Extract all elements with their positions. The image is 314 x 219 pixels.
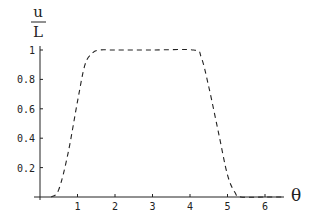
x-axis-label: θ	[291, 185, 301, 205]
chart: 123456 0.20.40.60.81 u L θ	[0, 0, 314, 219]
y-ticks: 0.20.40.60.81	[17, 45, 43, 174]
y-tick-label: 0.4	[17, 133, 35, 144]
x-tick-label: 1	[74, 201, 80, 212]
x-tick-label: 6	[262, 201, 268, 212]
x-tick-label: 4	[187, 201, 193, 212]
y-tick-label: 0.2	[17, 163, 35, 174]
x-tick-label: 5	[224, 201, 230, 212]
y-tick-label: 0.6	[17, 104, 35, 115]
y-axis-label-numerator: u	[33, 3, 43, 21]
y-axis-label-denominator: L	[33, 23, 43, 41]
y-tick-label: 1	[29, 45, 35, 56]
x-tick-label: 3	[149, 201, 155, 212]
series-line	[51, 49, 284, 197]
y-tick-label: 0.8	[17, 74, 35, 85]
x-tick-label: 2	[112, 201, 118, 212]
